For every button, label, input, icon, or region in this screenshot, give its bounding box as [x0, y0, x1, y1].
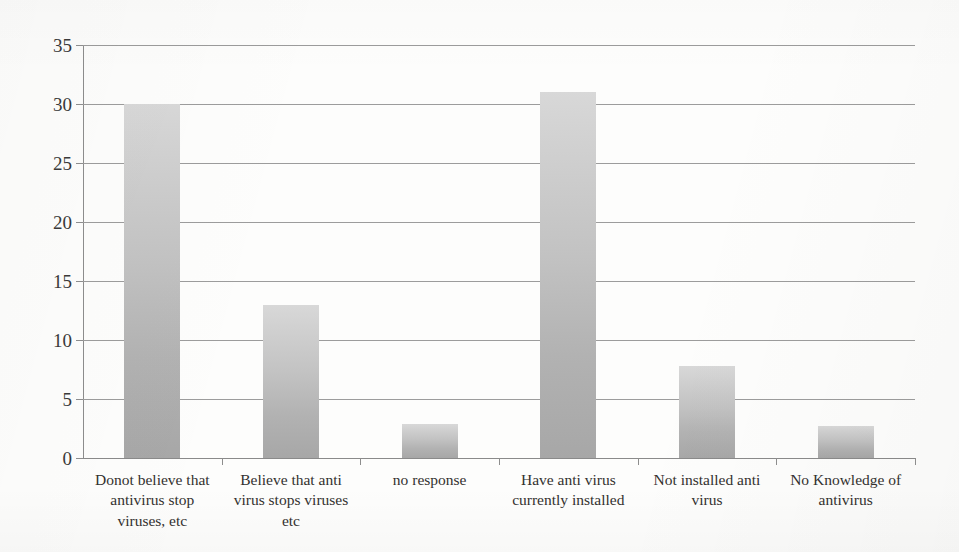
- x-axis-category-label-line: no response: [360, 470, 499, 490]
- y-axis-tick-label: 35: [28, 36, 72, 55]
- x-axis-category-label: No Knowledge ofantivirus: [776, 470, 915, 511]
- y-axis-tick-label: 15: [28, 272, 72, 291]
- x-axis-tick: [222, 458, 223, 465]
- bar-slot: [638, 45, 777, 458]
- x-axis-category-label-line: antivirus stop: [83, 490, 222, 510]
- bar[interactable]: [818, 426, 874, 458]
- bar[interactable]: [540, 92, 596, 458]
- bar[interactable]: [263, 305, 319, 458]
- bar-slot: [83, 45, 222, 458]
- y-axis-tick: [76, 399, 83, 400]
- x-axis-category-labels: Donot believe thatantivirus stopviruses,…: [83, 470, 915, 542]
- y-axis-tick-label: 10: [28, 331, 72, 350]
- x-axis-category-label-line: virus stops viruses: [222, 490, 361, 510]
- y-axis-tick: [76, 163, 83, 164]
- x-axis-category-label: Not installed antivirus: [638, 470, 777, 511]
- bar[interactable]: [402, 424, 458, 458]
- x-axis-tick: [638, 458, 639, 465]
- x-axis-category-label: Believe that antivirus stops virusesetc: [222, 470, 361, 531]
- x-axis-category-label-line: Have anti virus: [499, 470, 638, 490]
- bar-slot: [360, 45, 499, 458]
- x-axis-tick: [499, 458, 500, 465]
- bar-slot: [222, 45, 361, 458]
- y-axis-tick-label: 5: [28, 390, 72, 409]
- x-axis-category-label-line: viruses, etc: [83, 511, 222, 531]
- y-axis-tick-label: 30: [28, 95, 72, 114]
- x-axis-category-label: no response: [360, 470, 499, 490]
- bar[interactable]: [124, 104, 180, 458]
- x-axis-category-label-line: No Knowledge of: [776, 470, 915, 490]
- y-axis-tick: [76, 222, 83, 223]
- x-axis-tick: [915, 458, 916, 465]
- x-axis-category-label: Have anti viruscurrently installed: [499, 470, 638, 511]
- x-axis-category-label-line: Believe that anti: [222, 470, 361, 490]
- y-axis-tick-label: 20: [28, 213, 72, 232]
- bar-series: [83, 45, 915, 458]
- x-axis-tick: [776, 458, 777, 465]
- y-axis-tick-labels: 05101520253035: [16, 45, 72, 458]
- y-axis-tick-label: 25: [28, 154, 72, 173]
- x-axis-category-label-line: antivirus: [776, 490, 915, 510]
- bar[interactable]: [679, 366, 735, 458]
- x-axis-category-label: Donot believe thatantivirus stopviruses,…: [83, 470, 222, 531]
- x-axis-tick: [360, 458, 361, 465]
- bar-slot: [776, 45, 915, 458]
- x-axis-category-label-line: etc: [222, 511, 361, 531]
- y-axis-tick: [76, 104, 83, 105]
- bar-slot: [499, 45, 638, 458]
- y-axis-tick: [76, 45, 83, 46]
- bar-chart: 05101520253035 Donot believe thatantivir…: [0, 0, 959, 552]
- y-axis-tick-label: 0: [28, 449, 72, 468]
- x-axis-category-label-line: Not installed anti: [638, 470, 777, 490]
- y-axis-tick: [76, 281, 83, 282]
- x-axis-category-label-line: Donot believe that: [83, 470, 222, 490]
- y-axis-tick: [76, 340, 83, 341]
- x-axis-category-label-line: currently installed: [499, 490, 638, 510]
- y-axis-tick: [76, 458, 83, 459]
- x-axis-category-label-line: virus: [638, 490, 777, 510]
